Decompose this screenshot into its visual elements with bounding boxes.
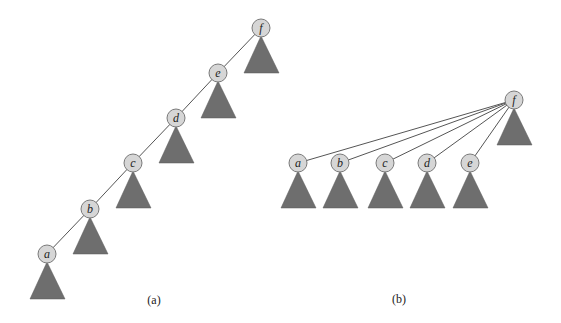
panel-b-node-d: d — [418, 154, 436, 172]
panel-b-node-b: b — [331, 154, 349, 172]
panel-b-node-b-subtree — [323, 171, 358, 208]
tree-diagram: fedcba(a)fabcde(b) — [0, 0, 561, 323]
panel-b-root: f — [505, 91, 523, 109]
panel-a-node-d-subtree — [159, 126, 194, 163]
panel-a-node-b-label: b — [87, 202, 93, 216]
panel-b-node-a-label: a — [295, 156, 301, 170]
panel-b-root-subtree — [497, 108, 532, 145]
panel-b-node-e: e — [461, 154, 479, 172]
panel-a-node-c: c — [124, 154, 142, 172]
panel-a-node-e-subtree — [201, 81, 236, 118]
panel-a-node-c-label: c — [130, 156, 136, 170]
panel-b-node-e-subtree — [453, 171, 488, 208]
panel-a-node-a-label: a — [44, 247, 50, 261]
panel-a-node-f-subtree — [244, 36, 279, 73]
diagram-svg: fedcba(a)fabcde(b) — [0, 0, 561, 323]
panel-b-node-a: a — [289, 154, 307, 172]
panel-b-node-d-subtree — [410, 171, 445, 208]
panel-b-node-a-subtree — [281, 171, 316, 208]
panel-b-node-b-label: b — [337, 156, 343, 170]
panel-a-node-a: a — [38, 245, 56, 263]
panel-b-node-c-label: c — [382, 156, 388, 170]
panel-a-node-d: d — [167, 109, 185, 127]
panel-a-node-e: e — [209, 64, 227, 82]
panel-a-node-b-subtree — [73, 217, 108, 254]
panel-a-node-f: f — [252, 19, 270, 37]
panel-a-node-d-label: d — [173, 111, 180, 125]
panel-b-node-d-label: d — [424, 156, 431, 170]
panel-b-node-c: c — [376, 154, 394, 172]
panel-a-node-a-subtree — [30, 262, 65, 299]
caption-b: (b) — [392, 292, 406, 306]
caption-a: (a) — [147, 293, 160, 307]
panel-b-node-e-label: e — [467, 156, 473, 170]
panel-b-node-c-subtree — [368, 171, 403, 208]
panel-a-node-c-subtree — [116, 171, 151, 208]
edge-b — [298, 100, 514, 163]
panel-a-node-b: b — [81, 200, 99, 218]
panel-a-node-e-label: e — [215, 66, 221, 80]
